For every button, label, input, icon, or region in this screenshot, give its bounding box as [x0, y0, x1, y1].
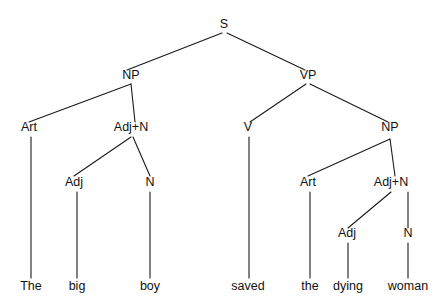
tree-leaf-word: The: [20, 279, 42, 293]
tree-leaf-word: woman: [387, 279, 428, 293]
tree-edge: [29, 84, 131, 122]
tree-edge: [133, 137, 150, 176]
tree-leaf-word: big: [69, 279, 86, 293]
tree-leaf-layer: Thebigboysavedthedyingwoman: [20, 279, 428, 293]
tree-node-label: Adj: [338, 226, 356, 240]
tree-node-label: Adj: [65, 175, 83, 189]
tree-node-label: NP: [122, 68, 139, 82]
tree-node-label: S: [220, 17, 228, 31]
syntax-tree-canvas: SNPVPArtAdj+NVNPAdjNArtAdj+NAdjN Thebigb…: [0, 0, 448, 308]
tree-leaf-word: saved: [231, 279, 264, 293]
tree-leaf-word: the: [301, 279, 318, 293]
tree-edge-layer: [29, 33, 408, 278]
tree-edge: [250, 84, 306, 122]
tree-node-label: N: [403, 226, 412, 240]
tree-node-label: Art: [21, 120, 38, 134]
tree-edge: [127, 33, 222, 70]
tree-edge: [310, 84, 388, 122]
tree-node-layer: SNPVPArtAdj+NVNPAdjNArtAdj+NAdjN: [21, 17, 413, 240]
tree-node-label: Adj+N: [114, 120, 148, 134]
tree-node-label: NP: [381, 120, 398, 134]
tree-node-label: VP: [300, 68, 317, 82]
tree-node-label: Adj+N: [374, 175, 408, 189]
tree-node-label: N: [145, 175, 154, 189]
tree-edge: [74, 137, 131, 176]
tree-leaf-word: boy: [140, 279, 161, 293]
syntax-tree-figure: SNPVPArtAdj+NVNPAdjNArtAdj+NAdjN Thebigb…: [0, 0, 448, 308]
tree-node-label: Art: [300, 175, 317, 189]
tree-node-label: V: [244, 120, 253, 134]
tree-edge: [227, 33, 305, 70]
tree-leaf-word: dying: [333, 279, 363, 293]
tree-edge: [308, 139, 390, 176]
tree-edge: [131, 84, 135, 122]
tree-edge: [348, 192, 391, 228]
tree-edge: [390, 139, 395, 176]
